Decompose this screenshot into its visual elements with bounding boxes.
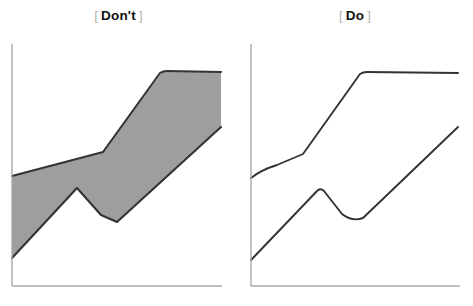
dont-do-comparison-figure: [Don't] [Do] (0, 0, 473, 306)
series-upper-line (251, 72, 458, 178)
fill-between-band (12, 71, 221, 258)
series-lower-line (251, 127, 458, 260)
chart-dont (0, 0, 237, 306)
panel-dont: [Don't] (0, 0, 237, 306)
chart-do (237, 0, 473, 306)
panel-do: [Do] (237, 0, 473, 306)
